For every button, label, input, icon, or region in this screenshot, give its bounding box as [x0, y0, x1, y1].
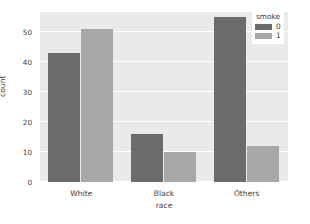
- legend-entry[interactable]: 0: [255, 23, 281, 30]
- y-axis-label: count: [0, 76, 7, 97]
- bar[interactable]: [214, 17, 246, 182]
- x-tick-label: Others: [234, 189, 260, 198]
- bar-group: [48, 12, 114, 182]
- x-tick-label: White: [70, 189, 92, 198]
- bars-layer: [40, 12, 288, 182]
- y-tick-label: 10: [23, 149, 32, 156]
- y-tick-label: 50: [23, 29, 32, 36]
- legend-label: 0: [276, 23, 281, 30]
- bar[interactable]: [81, 29, 113, 182]
- y-tick-label: 20: [23, 119, 32, 126]
- legend-title: smoke: [256, 12, 281, 21]
- bar-group: [131, 12, 197, 182]
- x-axis-label: race: [156, 201, 173, 210]
- chart-figure: 01020304050 count WhiteBlackOthers race …: [0, 0, 310, 224]
- bar[interactable]: [247, 146, 279, 182]
- legend-swatch: [255, 33, 272, 39]
- legend-swatch: [255, 24, 272, 30]
- y-tick-label: 0: [27, 179, 32, 186]
- legend-label: 1: [276, 32, 281, 39]
- plot-area: [40, 12, 288, 182]
- bar[interactable]: [131, 134, 163, 182]
- y-tick-label: 30: [23, 89, 32, 96]
- bar[interactable]: [48, 53, 80, 182]
- y-axis-ticks: 01020304050: [0, 0, 36, 224]
- legend: smoke 01: [252, 10, 284, 44]
- legend-entries: 01: [255, 23, 281, 39]
- bar[interactable]: [164, 152, 196, 182]
- x-tick-label: Black: [154, 189, 175, 198]
- legend-entry[interactable]: 1: [255, 32, 281, 39]
- y-tick-label: 40: [23, 59, 32, 66]
